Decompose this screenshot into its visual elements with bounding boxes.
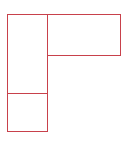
top-right-rect xyxy=(47,14,121,56)
bottom-left-rect xyxy=(7,93,48,132)
diagram-canvas xyxy=(0,0,139,147)
left-tall-rect xyxy=(7,14,48,94)
